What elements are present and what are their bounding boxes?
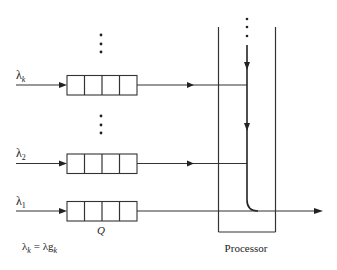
queue-k: λk bbox=[16, 68, 247, 95]
ellipsis-bus-icon bbox=[246, 18, 249, 38]
queueing-diagram: λk λ2 λ1 Q bbox=[0, 0, 337, 270]
queue-1: λ1 Q bbox=[16, 194, 137, 236]
lambda-2-label: λ2 bbox=[16, 146, 26, 162]
arrow-down-icon bbox=[244, 62, 250, 70]
processor-bus bbox=[244, 45, 258, 211]
arrow-icon bbox=[187, 161, 194, 167]
ellipsis-middle-icon bbox=[100, 115, 103, 135]
ellipsis-top-icon bbox=[100, 34, 103, 54]
queue-label: Q bbox=[97, 224, 105, 236]
lambda-k-label: λk bbox=[16, 68, 26, 84]
processor-label: Processor bbox=[225, 242, 268, 254]
output-line bbox=[137, 208, 323, 214]
arrow-down-icon bbox=[244, 123, 250, 131]
queue-2: λ2 bbox=[16, 146, 247, 174]
lambda-1-label: λ1 bbox=[16, 194, 26, 210]
rate-formula: λk = λgk bbox=[22, 240, 57, 255]
arrow-icon bbox=[59, 161, 67, 167]
output-arrow-icon bbox=[314, 208, 323, 214]
arrow-icon bbox=[59, 208, 67, 214]
arrow-icon bbox=[59, 82, 67, 88]
arrow-icon bbox=[187, 82, 194, 88]
